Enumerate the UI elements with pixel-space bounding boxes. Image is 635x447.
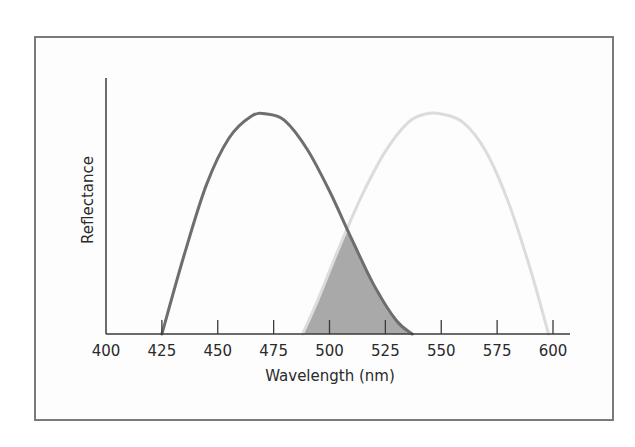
x-tick-label: 450	[203, 342, 232, 360]
reflectance-chart: 400425450475500525550575600 Wavelength (…	[0, 0, 635, 447]
x-tick-label: 500	[315, 342, 344, 360]
x-tick-label: 400	[92, 342, 121, 360]
x-axis-tick-labels: 400425450475500525550575600	[92, 342, 568, 360]
x-tick-label: 425	[148, 342, 177, 360]
x-axis-title: Wavelength (nm)	[265, 367, 395, 385]
y-axis-title: Reflectance	[79, 156, 97, 244]
x-tick-label: 550	[427, 342, 456, 360]
x-tick-label: 575	[483, 342, 512, 360]
x-tick-label: 525	[371, 342, 400, 360]
x-tick-label: 475	[259, 342, 288, 360]
x-tick-label: 600	[539, 342, 568, 360]
